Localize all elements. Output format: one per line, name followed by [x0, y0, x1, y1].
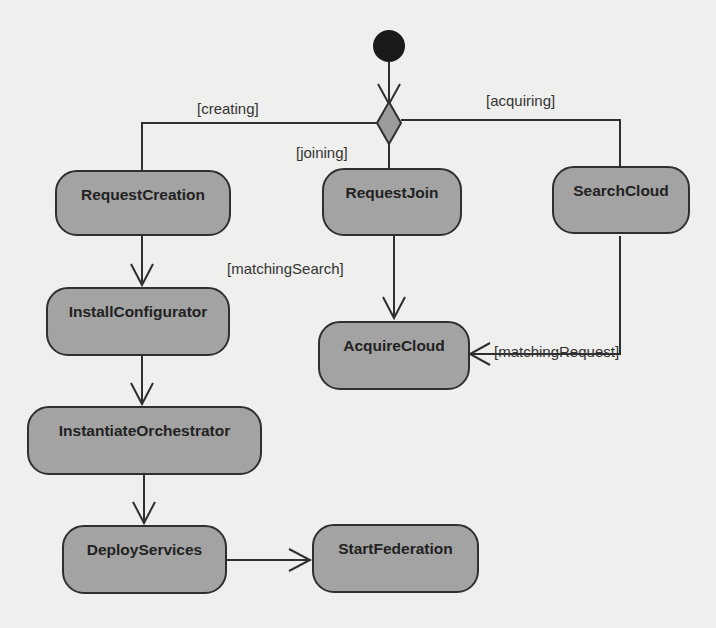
guard-matching-request: [matchingRequest] [494, 343, 619, 360]
node-label: RequestCreation [81, 186, 205, 204]
guard-creating: [creating] [197, 100, 259, 117]
node-label: InstantiateOrchestrator [59, 422, 230, 440]
guard-joining: [joining] [296, 144, 348, 161]
node-label: SearchCloud [573, 182, 669, 200]
node-label: DeployServices [87, 541, 202, 559]
node-search-cloud[interactable]: SearchCloud [552, 166, 690, 234]
node-acquire-cloud[interactable]: AcquireCloud [318, 321, 470, 390]
node-install-configurator[interactable]: InstallConfigurator [46, 287, 230, 356]
node-label: StartFederation [338, 540, 453, 558]
node-deploy-services[interactable]: DeployServices [62, 525, 227, 594]
guard-matching-search: [matchingSearch] [227, 260, 344, 277]
node-label: RequestJoin [345, 184, 438, 202]
guard-acquiring: [acquiring] [486, 92, 555, 109]
initial-node-icon [373, 30, 405, 62]
edge-search-cloud-acquire-cloud [470, 236, 620, 354]
activity-diagram: [creating] [joining] [acquiring] [matchi… [0, 0, 716, 628]
decision-diamond-icon [377, 102, 401, 144]
node-label: InstallConfigurator [69, 303, 208, 321]
node-request-creation[interactable]: RequestCreation [55, 170, 231, 236]
node-request-join[interactable]: RequestJoin [322, 168, 462, 236]
node-start-federation[interactable]: StartFederation [312, 524, 479, 593]
node-label: AcquireCloud [343, 337, 445, 355]
node-instantiate-orchestrator[interactable]: InstantiateOrchestrator [27, 406, 262, 475]
